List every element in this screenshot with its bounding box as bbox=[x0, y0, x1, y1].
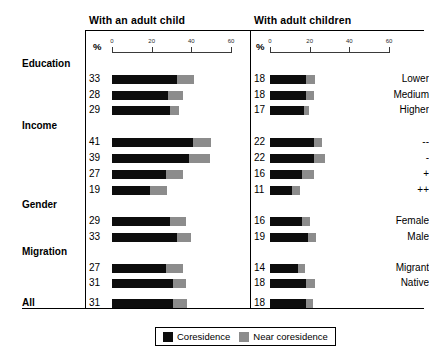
legend-item-near-coresidence: Near coresidence bbox=[239, 331, 327, 342]
bar-segment-coresidence bbox=[112, 154, 189, 163]
bar-left bbox=[112, 154, 210, 163]
value-label-left: 31 bbox=[89, 277, 100, 288]
bar-segment-near-coresidence bbox=[166, 264, 184, 273]
bar-segment-coresidence bbox=[112, 279, 173, 288]
bar-segment-coresidence bbox=[270, 186, 292, 195]
axis-line bbox=[112, 52, 231, 53]
bar-right bbox=[270, 138, 322, 147]
bar-segment-near-coresidence bbox=[306, 299, 313, 308]
axis-tick bbox=[310, 47, 311, 53]
row-label-native: Native bbox=[347, 277, 429, 288]
value-label-left: 27 bbox=[89, 168, 100, 179]
bar-right bbox=[270, 186, 300, 195]
bar-segment-coresidence bbox=[270, 233, 308, 242]
bar-segment-near-coresidence bbox=[306, 91, 314, 100]
bar-segment-coresidence bbox=[112, 138, 193, 147]
legend-item-coresidence: Coresidence bbox=[163, 331, 230, 342]
x-axis-right: 0204060 bbox=[270, 46, 389, 55]
bar-segment-coresidence bbox=[112, 233, 177, 242]
bar-segment-coresidence bbox=[112, 75, 177, 84]
bar-right bbox=[270, 299, 313, 308]
header-rule-left bbox=[86, 30, 250, 31]
bar-segment-coresidence bbox=[112, 217, 170, 226]
bar-segment-near-coresidence bbox=[302, 217, 310, 226]
bar-segment-near-coresidence bbox=[173, 279, 186, 288]
bar-segment-near-coresidence bbox=[302, 170, 314, 179]
value-label-left: 28 bbox=[89, 89, 100, 100]
group-label-migration: Migration bbox=[22, 246, 67, 257]
value-label-right: 19 bbox=[254, 231, 265, 242]
x-axis-left: 0204060 bbox=[112, 46, 231, 55]
value-label-right: 14 bbox=[254, 262, 265, 273]
bar-segment-coresidence bbox=[270, 75, 306, 84]
value-label-left: 29 bbox=[89, 215, 100, 226]
bar-segment-coresidence bbox=[112, 106, 170, 115]
axis-tick-label: 40 bbox=[346, 38, 353, 44]
axis-tick bbox=[112, 47, 113, 53]
bar-segment-coresidence bbox=[112, 91, 168, 100]
bar-segment-near-coresidence bbox=[292, 186, 300, 195]
row-label-male: Male bbox=[347, 231, 429, 242]
bar-segment-coresidence bbox=[270, 217, 302, 226]
chart-legend: CoresidenceNear coresidence bbox=[155, 327, 336, 346]
bar-segment-near-coresidence bbox=[168, 91, 184, 100]
group-label-income: Income bbox=[22, 120, 57, 131]
axis-line bbox=[270, 52, 389, 53]
axis-tick-label: 60 bbox=[386, 38, 393, 44]
bar-segment-near-coresidence bbox=[193, 138, 211, 147]
bar-left bbox=[112, 217, 186, 226]
axis-tick bbox=[152, 47, 153, 53]
bar-right bbox=[270, 279, 315, 288]
row-label-higher: Higher bbox=[347, 104, 429, 115]
row-label-female: Female bbox=[347, 215, 429, 226]
value-label-left: 31 bbox=[89, 297, 100, 308]
header-rule-right bbox=[251, 30, 424, 31]
bar-segment-coresidence bbox=[270, 264, 298, 273]
row-label-migrant: Migrant bbox=[347, 262, 429, 273]
value-label-left: 19 bbox=[89, 184, 100, 195]
panel-title-right: With adult children bbox=[254, 14, 351, 26]
bar-segment-coresidence bbox=[270, 106, 304, 115]
bar-left bbox=[112, 170, 183, 179]
value-label-right: 22 bbox=[254, 136, 265, 147]
bar-segment-near-coresidence bbox=[314, 138, 322, 147]
value-label-right: 16 bbox=[254, 168, 265, 179]
axis-unit-right: % bbox=[256, 41, 264, 52]
row-label-minusminus: -- bbox=[347, 136, 429, 147]
bar-right bbox=[270, 75, 315, 84]
bar-segment-coresidence bbox=[112, 264, 166, 273]
bar-left bbox=[112, 106, 179, 115]
value-label-right: 22 bbox=[254, 152, 265, 163]
axis-tick-label: 60 bbox=[228, 38, 235, 44]
bottom-rule bbox=[22, 308, 424, 309]
bar-segment-near-coresidence bbox=[150, 186, 167, 195]
value-label-left: 33 bbox=[89, 231, 100, 242]
legend-swatch-icon bbox=[239, 332, 249, 342]
bar-right bbox=[270, 154, 325, 163]
axis-tick bbox=[231, 47, 232, 53]
bar-segment-coresidence bbox=[270, 154, 314, 163]
row-label-plusplus: ++ bbox=[347, 184, 429, 195]
bar-left bbox=[112, 138, 211, 147]
bar-right bbox=[270, 217, 310, 226]
bar-left bbox=[112, 91, 183, 100]
bar-segment-near-coresidence bbox=[177, 233, 191, 242]
axis-tick-label: 0 bbox=[268, 38, 271, 44]
value-label-right: 18 bbox=[254, 277, 265, 288]
axis-tick bbox=[349, 47, 350, 53]
bar-segment-near-coresidence bbox=[177, 75, 194, 84]
bar-left bbox=[112, 264, 183, 273]
bar-segment-coresidence bbox=[270, 138, 314, 147]
bar-segment-near-coresidence bbox=[306, 75, 315, 84]
legend-swatch-icon bbox=[163, 332, 173, 342]
row-label-plus: + bbox=[347, 168, 429, 179]
row-label-medium: Medium bbox=[347, 89, 429, 100]
axis-tick bbox=[191, 47, 192, 53]
axis-tick bbox=[389, 47, 390, 53]
axis-tick-label: 40 bbox=[188, 38, 195, 44]
value-label-right: 16 bbox=[254, 215, 265, 226]
legend-label: Coresidence bbox=[177, 331, 230, 342]
bar-right bbox=[270, 91, 314, 100]
bar-segment-near-coresidence bbox=[314, 154, 325, 163]
bar-left bbox=[112, 279, 186, 288]
